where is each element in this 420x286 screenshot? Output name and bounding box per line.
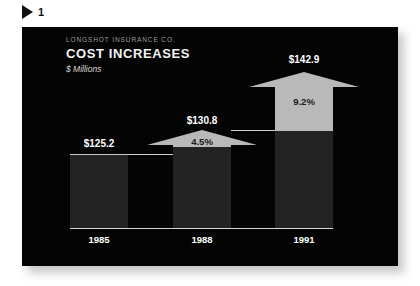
arrow-shaft-1991: [275, 87, 333, 131]
x-tick-label-1991: 1991: [275, 235, 333, 245]
plot-area: $125.2 4.5% $130.8 9.2% $142.9 1985 1988…: [22, 27, 398, 266]
value-label-1988: $130.8: [162, 116, 242, 126]
play-triangle-icon: [22, 5, 33, 19]
bar-1991: [275, 130, 333, 228]
bar-cap-1985: [70, 154, 128, 155]
arrow-head-1991: [249, 72, 359, 87]
chart-slide: LONGSHOT INSURANCE CO. COST INCREASES $ …: [22, 27, 398, 266]
connector-1985-1988: [128, 154, 173, 155]
x-tick-label-1988: 1988: [173, 235, 231, 245]
growth-percent-1991: 9.2%: [249, 97, 359, 107]
value-label-1991: $142.9: [264, 55, 344, 65]
axis-baseline: [70, 228, 333, 229]
bar-1985: [70, 155, 128, 228]
bar-1988: [173, 145, 231, 228]
growth-percent-1988: 4.5%: [147, 137, 257, 147]
slide-marker: 1: [22, 5, 44, 19]
value-label-1985: $125.2: [70, 139, 128, 149]
slide-number: 1: [38, 7, 44, 18]
x-tick-label-1985: 1985: [70, 235, 128, 245]
